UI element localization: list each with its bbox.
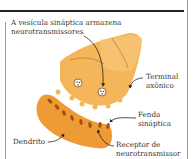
label-cleft-line2: sináptica	[138, 120, 171, 129]
label-vesicle-line2: neurotransmissores	[11, 28, 83, 37]
axon-terminal-shape	[56, 33, 143, 109]
vesicle-left	[74, 79, 82, 87]
label-terminal-line2: axônico	[146, 82, 174, 91]
label-receptor-line2: neurotransmissor	[116, 150, 180, 159]
arrow-cleft	[110, 118, 136, 122]
vesicle-right	[98, 88, 106, 96]
label-dendrite: Dendrito	[13, 138, 45, 147]
